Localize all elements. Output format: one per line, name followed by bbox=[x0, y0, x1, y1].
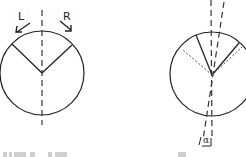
label-l: L bbox=[18, 10, 25, 23]
right-v-arm bbox=[42, 45, 72, 73]
dotted-arm-right bbox=[212, 47, 242, 75]
angle-alpha-label: α bbox=[199, 135, 211, 146]
vertical-axis bbox=[211, 0, 212, 140]
diagram-canvas: L R α bbox=[0, 0, 246, 157]
arrow-l-icon bbox=[16, 23, 30, 32]
svg-text:α: α bbox=[203, 135, 209, 145]
label-r: R bbox=[63, 10, 71, 23]
solid-arm-right bbox=[212, 43, 239, 75]
tilted-axis bbox=[203, 2, 224, 140]
left-panel: L R bbox=[0, 10, 84, 125]
right-panel: α bbox=[170, 0, 246, 146]
cropped-caption-row bbox=[3, 152, 186, 157]
solid-arm-left bbox=[196, 35, 212, 75]
left-v-arm bbox=[12, 44, 42, 73]
